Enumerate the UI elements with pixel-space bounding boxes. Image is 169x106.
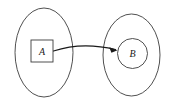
mapping-arrow-path	[54, 46, 116, 51]
mapping-arrow-head	[109, 47, 117, 53]
element-a-label: A	[38, 46, 46, 57]
set-mapping-diagram: A B	[0, 0, 169, 106]
element-b-label: B	[129, 48, 135, 59]
